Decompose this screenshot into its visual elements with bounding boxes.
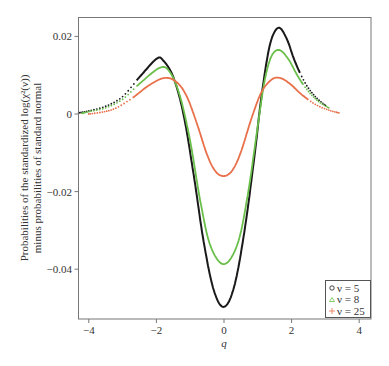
chart: −4−2024 0.020−0.02−0.04 q Probabilities … bbox=[0, 0, 389, 366]
x-axis: −4−2024 bbox=[83, 319, 363, 336]
series-tail-dot bbox=[319, 106, 321, 108]
series-tail-dot bbox=[309, 93, 311, 95]
series-tail-dot bbox=[304, 86, 306, 88]
series-tail-dot bbox=[112, 108, 114, 110]
series-tail-dot bbox=[93, 110, 95, 112]
series-tail-dot bbox=[321, 107, 323, 109]
series-tail-dot bbox=[311, 94, 313, 96]
series-tail-dot bbox=[318, 101, 320, 103]
series-line-0 bbox=[137, 28, 300, 307]
series-tail-dot bbox=[118, 106, 120, 108]
series-tail-dot bbox=[320, 102, 322, 104]
series-tail-dot bbox=[106, 110, 108, 112]
x-tick-label: 2 bbox=[289, 324, 295, 336]
y-tick-label: −0.02 bbox=[47, 186, 72, 198]
series-tail-dot bbox=[122, 96, 124, 98]
series-tail-dot bbox=[110, 103, 112, 105]
series-tail-dot bbox=[309, 90, 311, 92]
legend: ν = 5 ν = 8 ν = 25 bbox=[326, 281, 371, 318]
series-tail-dot bbox=[303, 79, 305, 81]
series-tail-dot bbox=[133, 88, 135, 90]
y-tick-label: −0.04 bbox=[47, 263, 73, 275]
series-tail-dot bbox=[130, 91, 132, 93]
series-tail-dot bbox=[99, 112, 101, 114]
series-tail-dot bbox=[90, 110, 92, 112]
series-tail-dot bbox=[119, 100, 121, 102]
series-tail-dot bbox=[94, 112, 96, 114]
y-tick-label: 0 bbox=[67, 108, 73, 120]
series-tail-dot bbox=[316, 98, 318, 100]
series-tail-dot bbox=[125, 93, 127, 95]
plot-frame bbox=[79, 18, 372, 320]
series-tail-dot bbox=[306, 85, 308, 87]
series-tail-dot bbox=[91, 113, 93, 115]
series-tail-dot bbox=[308, 87, 310, 89]
series-tail-dot bbox=[104, 111, 106, 113]
series-tail-dot bbox=[99, 109, 101, 111]
x-tick-label: 4 bbox=[356, 324, 362, 336]
series-line-2 bbox=[133, 78, 309, 177]
legend-label-nu8: ν = 8 bbox=[337, 293, 360, 305]
series-tail-dot bbox=[102, 108, 104, 110]
series-tail-dot bbox=[334, 111, 336, 113]
series-tail-dot bbox=[110, 109, 112, 111]
series-tail-dot bbox=[313, 94, 315, 96]
series-tail-dot bbox=[314, 98, 316, 100]
series-tail-dot bbox=[314, 103, 316, 105]
y-axis: 0.020−0.02−0.04 bbox=[47, 30, 79, 275]
series-tail-dot bbox=[122, 98, 124, 100]
series-tail-dot bbox=[321, 103, 323, 105]
series-tail-dot bbox=[127, 90, 129, 92]
series-tail-dot bbox=[304, 82, 306, 84]
series-tail-dot bbox=[108, 104, 110, 106]
series-tail-dot bbox=[328, 109, 330, 111]
series-tail-dot bbox=[108, 106, 110, 108]
series-tail-dot bbox=[317, 105, 319, 107]
series-tail-dot bbox=[312, 102, 314, 104]
series-tail-dot bbox=[308, 91, 310, 93]
series-tail-dot bbox=[96, 112, 98, 114]
series-tail-dot bbox=[324, 108, 326, 110]
series-tail-dot bbox=[338, 112, 340, 114]
series-tail-dot bbox=[110, 105, 112, 107]
series-tail-dot bbox=[326, 108, 328, 110]
series-tail-dot bbox=[89, 113, 91, 115]
series-tail-dot bbox=[316, 99, 318, 101]
series-tail-dot bbox=[313, 96, 315, 98]
series-tail-dot bbox=[126, 101, 128, 103]
series-tail-dot bbox=[123, 103, 125, 105]
series-tail-dot bbox=[332, 110, 334, 112]
y-axis-label-line1: Probabilities of the standardized log(χ²… bbox=[18, 74, 31, 261]
series-tail-dot bbox=[127, 94, 129, 96]
x-axis-label: q bbox=[221, 337, 227, 349]
x-tick-label: −4 bbox=[83, 324, 95, 336]
series-tail-dot bbox=[119, 98, 121, 100]
series-tail-dot bbox=[115, 107, 117, 109]
series-tail-dot bbox=[328, 107, 330, 109]
y-axis-label-line2: minus probabilities of standard normal bbox=[31, 83, 43, 253]
series-tail-dot bbox=[129, 99, 131, 101]
series-tail-dot bbox=[124, 96, 126, 98]
series-tail-dot bbox=[113, 103, 115, 105]
series-tail-dot bbox=[314, 96, 316, 98]
series-tail-dot bbox=[116, 102, 118, 104]
series-tail-dot bbox=[116, 100, 118, 102]
series-tail-dot bbox=[306, 88, 308, 90]
series-tail-dot bbox=[105, 107, 107, 109]
series-tail-dot bbox=[130, 86, 132, 88]
x-tick-label: 0 bbox=[221, 324, 227, 336]
x-tick-label: −2 bbox=[151, 324, 163, 336]
series-tail-dot bbox=[310, 100, 312, 102]
series-tail-dot bbox=[96, 109, 98, 111]
series-tail-dot bbox=[133, 83, 135, 85]
series-tail-dot bbox=[86, 111, 88, 113]
series-tail-dot bbox=[120, 104, 122, 106]
plot-area bbox=[78, 28, 340, 307]
series-tail-dot bbox=[105, 105, 107, 107]
series-tail-dot bbox=[301, 76, 303, 78]
series-tail-dot bbox=[330, 110, 332, 112]
series-tail-dot bbox=[108, 110, 110, 112]
series-tail-dot bbox=[311, 92, 313, 94]
series-tail-dot bbox=[113, 101, 115, 103]
series-line-1 bbox=[137, 50, 304, 264]
